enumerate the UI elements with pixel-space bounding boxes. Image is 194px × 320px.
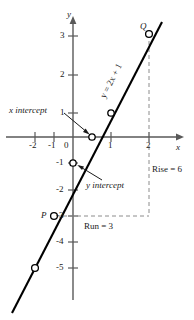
point-label-q: Q (140, 22, 147, 31)
y-tick-label--2: -2 (56, 185, 64, 194)
x-tick-label-1: 1 (108, 141, 113, 150)
y-tick-label-3: 3 (60, 31, 65, 40)
y-tick-label--5: -5 (56, 263, 64, 272)
x-tick-label-2: 2 (146, 141, 151, 150)
y-intercept-annotation-text: y intercept (86, 180, 124, 190)
point-one-one (108, 110, 114, 116)
y-axis-label: y (67, 10, 71, 19)
y-tick-label--1: -1 (56, 158, 64, 167)
rise-annotation: Rise = 6 (152, 165, 182, 174)
x-tick-label--2: -2 (29, 141, 37, 150)
point-label-p: P (41, 211, 47, 220)
y-tick-label-2: 2 (60, 70, 65, 79)
y-tick-label--3: -3 (56, 211, 64, 220)
y-intercept-annotation: y intercept (86, 181, 124, 190)
run-annotation: Run = 3 (84, 222, 113, 231)
x-intercept-leader (64, 113, 90, 134)
point-x-intercept (89, 134, 95, 140)
x-intercept-annotation-text: x intercept (9, 105, 47, 115)
y-tick-label--4: -4 (56, 237, 64, 246)
graph-canvas (0, 0, 194, 320)
point-y-intercept (70, 160, 76, 166)
x-tick-label--1: -1 (48, 141, 56, 150)
y-axis (70, 16, 77, 300)
y-tick-label-1: 1 (60, 108, 65, 117)
x-intercept-annotation: x intercept (9, 106, 47, 115)
data-points (32, 31, 153, 272)
point-q (146, 31, 153, 38)
point-lower-left (32, 265, 39, 272)
graph-figure: -2 -1 0 1 2 3 2 1 -1 -2 -3 -4 -5 x y y =… (0, 0, 194, 320)
x-axis-label: x (176, 143, 180, 152)
x-tick-label-0: 0 (64, 141, 69, 150)
